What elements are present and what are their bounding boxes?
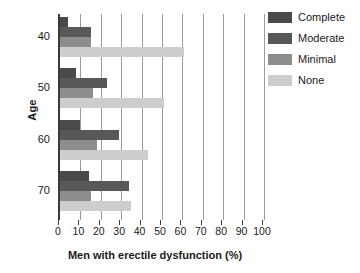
legend-swatch-none xyxy=(268,75,292,86)
legend-item-complete[interactable]: Complete xyxy=(268,11,345,23)
bar-moderate-age-40[interactable] xyxy=(60,27,91,37)
bar-minimal-age-50[interactable] xyxy=(60,88,93,98)
bar-row xyxy=(60,140,264,150)
bar-none-age-70[interactable] xyxy=(60,201,131,211)
bar-complete-age-70[interactable] xyxy=(60,171,89,181)
bar-row xyxy=(60,47,264,57)
bar-none-age-50[interactable] xyxy=(60,98,164,108)
bar-complete-age-40[interactable] xyxy=(60,17,68,27)
bar-row xyxy=(60,171,264,181)
bar-row xyxy=(60,130,264,140)
y-tick-label-40: 40 xyxy=(2,30,50,42)
legend-label: None xyxy=(298,74,324,86)
legend-label: Complete xyxy=(298,11,345,23)
bar-row xyxy=(60,68,264,78)
bar-minimal-age-70[interactable] xyxy=(60,191,91,201)
bar-none-age-40[interactable] xyxy=(60,47,184,57)
legend-swatch-complete xyxy=(268,12,292,23)
bar-minimal-age-60[interactable] xyxy=(60,140,97,150)
chart-container: Age 40506070 0102030405060708090100 Men … xyxy=(0,0,360,273)
bar-moderate-age-50[interactable] xyxy=(60,78,107,88)
y-tick-label-50: 50 xyxy=(2,81,50,93)
gridline xyxy=(264,14,265,220)
y-tick-label-60: 60 xyxy=(2,133,50,145)
bar-row xyxy=(60,78,264,88)
legend-swatch-moderate xyxy=(268,33,292,44)
bar-groups xyxy=(60,14,264,220)
bar-none-age-60[interactable] xyxy=(60,150,148,160)
plot-area xyxy=(58,14,264,220)
bar-row xyxy=(60,98,264,108)
bar-row xyxy=(60,88,264,98)
bar-group-age-70 xyxy=(60,171,264,211)
bar-row xyxy=(60,27,264,37)
bar-row xyxy=(60,120,264,130)
bar-complete-age-50[interactable] xyxy=(60,68,76,78)
bar-row xyxy=(60,37,264,47)
bar-row xyxy=(60,201,264,211)
bar-moderate-age-60[interactable] xyxy=(60,130,119,140)
bar-row xyxy=(60,191,264,201)
legend-label: Minimal xyxy=(298,53,336,65)
bar-row xyxy=(60,17,264,27)
legend-item-none[interactable]: None xyxy=(268,74,345,86)
legend-swatch-minimal xyxy=(268,54,292,65)
bar-complete-age-60[interactable] xyxy=(60,120,80,130)
bar-group-age-50 xyxy=(60,68,264,108)
bar-row xyxy=(60,150,264,160)
legend-item-minimal[interactable]: Minimal xyxy=(268,53,345,65)
bar-minimal-age-40[interactable] xyxy=(60,37,91,47)
x-axis-title: Men with erectile dysfunction (%) xyxy=(30,249,280,261)
legend-item-moderate[interactable]: Moderate xyxy=(268,32,345,44)
bar-group-age-60 xyxy=(60,120,264,160)
y-axis-tick-labels: 40506070 xyxy=(0,14,54,220)
legend: CompleteModerateMinimalNone xyxy=(268,11,345,86)
bar-row xyxy=(60,181,264,191)
x-axis-tick-labels: 0102030405060708090100 xyxy=(58,220,264,230)
legend-label: Moderate xyxy=(298,32,344,44)
y-tick-label-70: 70 xyxy=(2,184,50,196)
bar-moderate-age-70[interactable] xyxy=(60,181,129,191)
x-tick-label-100: 100 xyxy=(247,225,277,237)
bar-group-age-40 xyxy=(60,17,264,57)
